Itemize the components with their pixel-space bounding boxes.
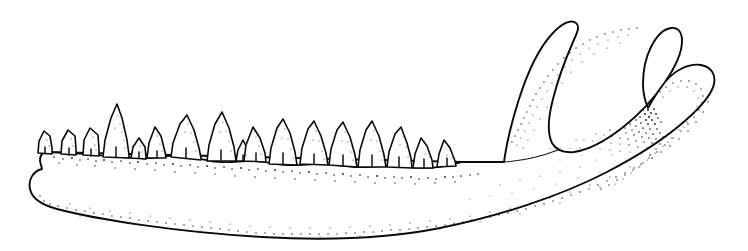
tooth-1 [38, 131, 52, 154]
tooth-4 [103, 104, 129, 158]
tooth-17 [437, 140, 456, 167]
tooth-7 [171, 115, 201, 160]
tooth-16 [413, 138, 433, 168]
tooth-10 [244, 127, 266, 162]
tooth-5 [131, 138, 146, 159]
tooth-3 [83, 128, 99, 156]
tooth-6 [147, 127, 166, 158]
figure-canvas [0, 0, 748, 251]
tooth-8 [207, 112, 236, 161]
tooth-2 [61, 130, 76, 155]
tooth-12 [300, 121, 328, 165]
mandible-illustration [0, 0, 748, 251]
tooth-15 [387, 127, 412, 168]
